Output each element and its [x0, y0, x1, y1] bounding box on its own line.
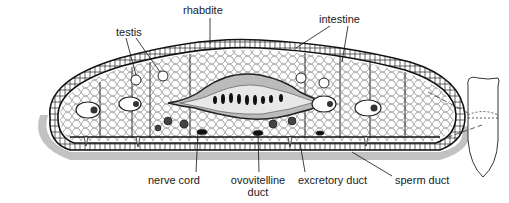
label-testis: testis: [116, 26, 142, 38]
label-intestine: intestine: [319, 13, 360, 25]
label-excretory-duct: excretory duct: [298, 174, 367, 186]
label-ovovitelline-line1: ovovitelline: [223, 174, 293, 186]
label-ovovitelline-duct: ovovitelline duct: [223, 174, 293, 198]
label-sperm-duct: sperm duct: [395, 174, 449, 186]
flatworm-cross-section-diagram: [0, 0, 509, 203]
label-rhabdite: rhabdite: [183, 4, 223, 16]
label-ovovitelline-line2: duct: [223, 186, 293, 198]
label-nerve-cord: nerve cord: [148, 174, 200, 186]
